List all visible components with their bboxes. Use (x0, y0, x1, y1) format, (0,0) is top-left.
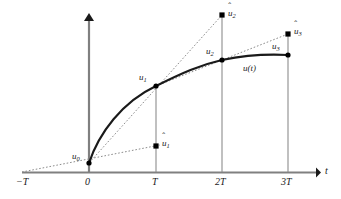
label-u2-hat-base-wrap: ˆu (228, 9, 233, 18)
tick-label-zero: 0 (85, 177, 90, 187)
t-axis-arrowhead (316, 168, 321, 178)
point-u1 (153, 83, 158, 88)
label-u1: u1 (139, 73, 147, 83)
label-u2-hat: ˆu2 (228, 9, 236, 19)
t-axis-label: t (325, 166, 328, 176)
label-u2-sub: 2 (211, 50, 214, 57)
tick-label-3T: 3T (281, 177, 292, 187)
curve-label-u-of-t: u(t) (243, 64, 256, 73)
solution-curve (89, 55, 288, 163)
tick-label-minus-T: −T (16, 177, 28, 187)
label-u1-hat: ˆu1 (162, 139, 170, 149)
extrapolation-diagram (0, 0, 341, 199)
point-u0 (86, 160, 91, 165)
label-u1-hat-base-wrap: ˆu (162, 139, 167, 148)
tick-label-2T: 2T (215, 177, 226, 187)
point-u3-hat (285, 31, 290, 36)
label-u3-hat-base-wrap: ˆu (294, 27, 299, 36)
point-u2 (219, 57, 224, 62)
point-u1-hat (153, 143, 158, 148)
point-u3 (285, 52, 290, 57)
point-u2-hat (219, 12, 224, 17)
hat-accent-icon: ˆ (294, 20, 297, 29)
hat-accent-icon: ˆ (228, 2, 231, 11)
u-axis-arrowhead (84, 13, 94, 21)
label-u3: u3 (272, 42, 280, 52)
hat-accent-icon: ˆ (162, 132, 165, 141)
curve-label-arg: (t) (248, 63, 257, 73)
label-u0-sub: 0 (77, 155, 80, 162)
label-u3-sub: 3 (277, 45, 280, 52)
label-u0: u0 (72, 152, 80, 162)
label-u3-hat: ˆu3 (294, 27, 302, 37)
tick-label-T: T (152, 177, 158, 187)
label-u2: u2 (206, 47, 214, 57)
label-u1-sub: 1 (144, 76, 147, 83)
